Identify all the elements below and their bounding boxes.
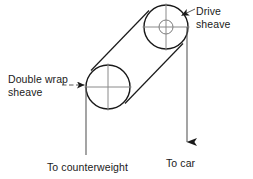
belt-lower-tangent [125,44,183,104]
drive-sheave-label: Drive sheave [196,5,230,30]
drive-sheave-leader [182,9,196,16]
to-counterweight-label: To counterweight [47,161,128,174]
belt-upper-tangent [91,11,149,71]
sheave-diagram: Drive sheave Double wrap sheave To count… [0,0,253,179]
drive-sheave-leader-line [182,9,196,16]
to-car-label: To car [166,157,195,170]
double-wrap-sheave-label: Double wrap sheave [8,73,68,98]
belt-wrap-group [91,11,183,104]
